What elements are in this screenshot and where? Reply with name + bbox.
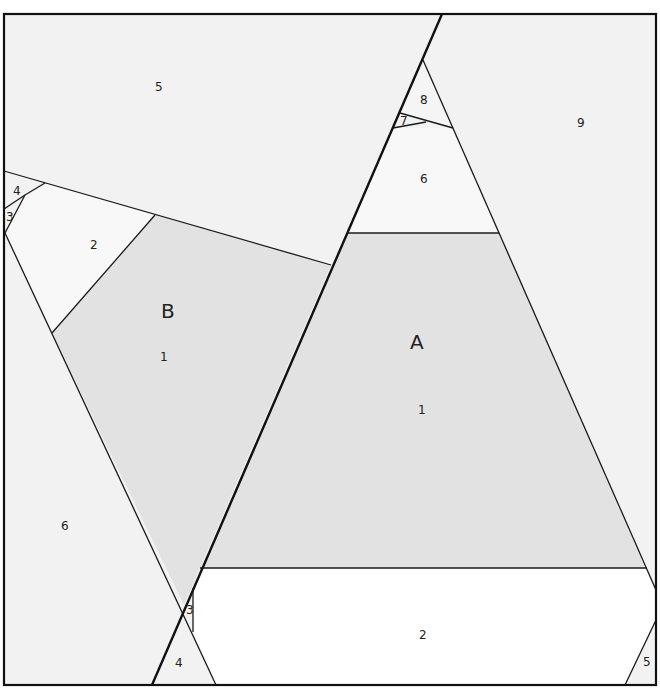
label-shape-A: A — [410, 330, 424, 354]
label-bottom-4: 4 — [175, 656, 183, 670]
label-left-6: 6 — [61, 519, 69, 533]
label-left-2: 2 — [90, 238, 98, 252]
label-right-9: 9 — [577, 116, 585, 130]
label-bottom-3: 3 — [186, 603, 194, 617]
label-top-left-5: 5 — [155, 80, 163, 94]
label-bottom-2: 2 — [419, 628, 427, 642]
label-top-7: 7 — [400, 114, 408, 128]
label-top-8: 8 — [420, 93, 428, 107]
dissection-diagram: 5 4 3 2 B 1 6 3 4 8 7 6 9 A 1 2 5 — [0, 0, 660, 692]
label-top-left-3: 3 — [6, 210, 14, 224]
region-bottom-2 — [193, 568, 656, 685]
label-A-1: 1 — [418, 403, 426, 417]
label-top-left-4: 4 — [13, 184, 21, 198]
label-shape-B: B — [161, 299, 175, 323]
label-bottom-right-5: 5 — [643, 655, 651, 669]
label-B-1: 1 — [160, 350, 168, 364]
label-top-6: 6 — [420, 172, 428, 186]
